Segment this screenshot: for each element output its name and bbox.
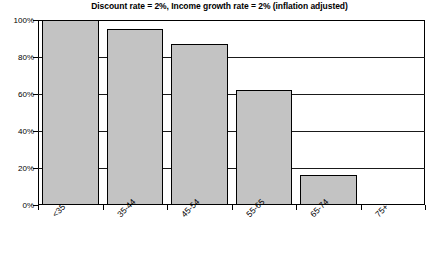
y-tick-mark (33, 57, 38, 58)
y-tick-label: 20% (0, 164, 34, 173)
x-tick-mark (103, 205, 104, 210)
y-tick-label: 40% (0, 127, 34, 136)
x-tick-mark (361, 205, 362, 210)
y-tick-mark (33, 131, 38, 132)
bar (42, 20, 99, 205)
x-tick-mark (167, 205, 168, 210)
y-tick-label: 100% (0, 16, 34, 25)
x-tick-mark (296, 205, 297, 210)
y-tick-label: 80% (0, 53, 34, 62)
y-tick-mark (33, 20, 38, 21)
x-tick-mark (232, 205, 233, 210)
y-tick-mark (33, 168, 38, 169)
y-tick-mark (33, 94, 38, 95)
chart-title: Discount rate = 2%, Income growth rate =… (0, 1, 439, 11)
plot-area (38, 20, 425, 205)
bar (107, 29, 164, 205)
x-tick-mark (425, 205, 426, 210)
x-tick-mark (38, 205, 39, 210)
bar (171, 44, 228, 205)
y-tick-label: 60% (0, 90, 34, 99)
bar (236, 90, 293, 205)
y-tick-label: 0% (0, 201, 34, 210)
bar-series (38, 20, 425, 205)
chart-screenshot: Discount rate = 2%, Income growth rate =… (0, 0, 439, 254)
